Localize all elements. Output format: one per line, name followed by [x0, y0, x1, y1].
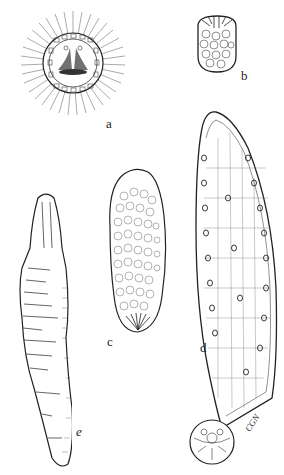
ciliated-sphere-illustration — [18, 8, 128, 118]
figure-c — [104, 166, 170, 336]
label-d: d — [200, 340, 207, 356]
figure-d — [182, 108, 282, 468]
label-c: c — [107, 334, 113, 350]
label-b: b — [241, 68, 248, 84]
elongate-sac-illustration — [182, 108, 282, 468]
wrinkled-worm-illustration — [12, 188, 72, 473]
figure-b — [194, 14, 240, 74]
ovoid-body-illustration — [104, 166, 170, 336]
oval-larva-illustration — [194, 14, 240, 74]
label-a: a — [106, 116, 112, 132]
label-e: e — [76, 424, 82, 440]
figure-a — [18, 8, 128, 118]
figure-e — [12, 188, 72, 473]
